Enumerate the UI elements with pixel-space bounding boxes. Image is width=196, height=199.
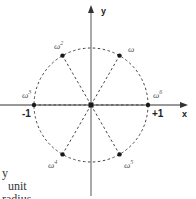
omega-exp: 3 [28, 89, 31, 95]
omega-exp: 2 [60, 40, 63, 46]
label-neg-one: -1 [22, 109, 31, 119]
label-omega5: ω5 [124, 159, 133, 170]
label-omega6: ω6 [153, 89, 162, 100]
omega-exp: 4 [54, 159, 57, 165]
omega-exp: 6 [159, 89, 162, 95]
caption-line-2: unit [8, 180, 27, 192]
y-axis-arrow-icon [88, 5, 94, 13]
point-omega4 [60, 152, 64, 156]
caption-line-3: radius [2, 193, 31, 199]
label-omega4: ω4 [48, 159, 57, 170]
omega-exp: 5 [130, 159, 133, 165]
label-pos-one: +1 [152, 109, 163, 119]
point-omega2 [60, 53, 64, 57]
point-omega [117, 53, 121, 57]
label-x-axis: x [182, 110, 187, 119]
label-omega2: ω2 [54, 40, 63, 51]
omega-base: ω [128, 44, 134, 54]
point-omega3 [32, 103, 36, 107]
point-omega5 [117, 152, 121, 156]
label-y-axis: y [101, 7, 106, 16]
label-omega: ω [128, 43, 134, 54]
x-axis-arrow-icon [180, 102, 188, 108]
label-omega3: ω3 [22, 89, 31, 100]
point-omega6 [146, 103, 150, 107]
origin-point [89, 103, 94, 108]
caption-line-1: y [2, 167, 8, 179]
